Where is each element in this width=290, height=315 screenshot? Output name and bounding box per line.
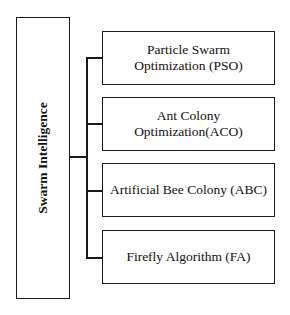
root-connector	[70, 156, 87, 158]
root-label: Swarm Intelligence	[35, 102, 51, 213]
child-label: Artificial Bee Colony (ABC)	[110, 182, 267, 198]
child-label: Ant Colony Optimization(ACO)	[124, 108, 254, 140]
child-node-fa: Firefly Algorithm (FA)	[102, 230, 275, 284]
branch-connector-4	[86, 257, 103, 259]
child-label: Particle Swarm Optimization (PSO)	[114, 42, 264, 74]
child-node-aco: Ant Colony Optimization(ACO)	[102, 97, 275, 151]
branch-connector-3	[86, 190, 103, 192]
branch-connector-2	[86, 123, 103, 125]
vertical-trunk	[86, 57, 88, 258]
branch-connector-1	[86, 57, 103, 59]
child-node-abc: Artificial Bee Colony (ABC)	[102, 163, 275, 217]
root-node: Swarm Intelligence	[16, 17, 70, 299]
child-node-pso: Particle Swarm Optimization (PSO)	[102, 31, 275, 85]
child-label: Firefly Algorithm (FA)	[126, 249, 250, 265]
